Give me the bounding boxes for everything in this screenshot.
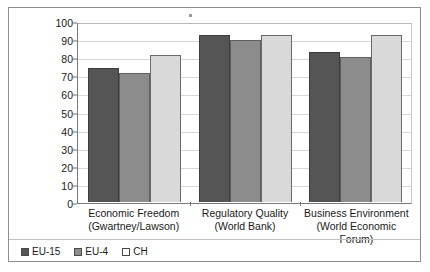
y-tick-mark: [73, 59, 77, 60]
y-tick-label: 10: [41, 180, 73, 192]
bar-ch: [150, 55, 181, 203]
category-label-line: (World Bank): [189, 220, 300, 233]
bar-eu-4: [340, 57, 371, 202]
legend-item[interactable]: EU-4: [74, 246, 108, 257]
y-tick-label: 30: [41, 144, 73, 156]
plot-area: [77, 23, 412, 204]
y-tick-mark: [73, 131, 77, 132]
category-label-line: Regulatory Quality: [189, 207, 300, 220]
bar-eu-15: [309, 52, 340, 202]
legend-divider: [9, 239, 420, 240]
bar-group: [190, 23, 301, 202]
y-tick-mark: [73, 185, 77, 186]
y-tick-label: 50: [41, 108, 73, 120]
y-tick-label: 90: [41, 35, 73, 47]
y-tick-label: 80: [41, 53, 73, 65]
legend-swatch-eu15: [21, 248, 29, 256]
plot-wrapper: 1009080706050403020100: [9, 8, 422, 216]
y-tick-mark: [73, 149, 77, 150]
bar-eu-15: [199, 35, 230, 202]
y-tick-label: 60: [41, 89, 73, 101]
legend-label: EU-4: [85, 246, 108, 257]
legend-label: CH: [133, 246, 147, 257]
bar-groups: [79, 23, 411, 202]
category-label-line: (Gwartney/Lawson): [78, 220, 189, 233]
chart-legend: EU-15EU-4CH: [21, 246, 148, 257]
bar-group: [300, 23, 411, 202]
bar-ch: [371, 35, 402, 202]
y-tick-mark: [73, 204, 77, 205]
y-tick-label: 40: [41, 126, 73, 138]
y-tick-mark: [73, 41, 77, 42]
y-tick-mark: [73, 113, 77, 114]
bar-eu-4: [119, 73, 150, 202]
bar-ch: [261, 35, 292, 202]
y-tick-mark: [73, 23, 77, 24]
category-label-line: Economic Freedom: [78, 207, 189, 220]
legend-item[interactable]: EU-15: [21, 246, 60, 257]
category-label-line: (World Economic Forum): [301, 220, 412, 246]
category-label: Economic Freedom(Gwartney/Lawson): [78, 207, 189, 246]
category-label-line: Business Environment: [301, 207, 412, 220]
legend-label: EU-15: [32, 246, 60, 257]
category-tick-mark: [190, 202, 191, 206]
chart-figure: 1009080706050403020100 Economic Freedom(…: [8, 7, 421, 262]
category-tick-mark: [300, 202, 301, 206]
category-axis-labels: Economic Freedom(Gwartney/Lawson)Regulat…: [78, 207, 412, 246]
legend-swatch-ch: [122, 248, 130, 256]
category-label: Business Environment(World Economic Foru…: [301, 207, 412, 246]
y-tick-label: 0: [41, 198, 73, 210]
y-tick-label: 100: [41, 17, 73, 29]
legend-item[interactable]: CH: [122, 246, 147, 257]
bar-eu-15: [88, 68, 119, 202]
legend-swatch-eu4: [74, 248, 82, 256]
y-tick-mark: [73, 95, 77, 96]
y-tick-label: 70: [41, 71, 73, 83]
y-tick-mark: [73, 167, 77, 168]
y-tick-mark: [73, 77, 77, 78]
bar-group: [79, 23, 190, 202]
bar-eu-4: [230, 40, 261, 202]
y-axis: 1009080706050403020100: [37, 23, 73, 204]
y-tick-label: 20: [41, 162, 73, 174]
category-label: Regulatory Quality(World Bank): [189, 207, 300, 246]
